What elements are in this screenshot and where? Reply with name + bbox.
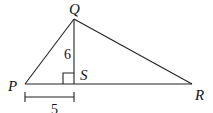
measurement-ps: 5 <box>51 102 58 113</box>
vertex-label-q: Q <box>69 1 80 17</box>
triangle-diagram: Q P S R 6 5 <box>0 0 213 113</box>
vertex-label-s: S <box>80 67 88 83</box>
vertex-label-r: R <box>194 87 204 103</box>
segment-qr <box>74 19 192 84</box>
right-angle-marker-icon <box>63 73 74 84</box>
vertex-label-p: P <box>7 78 17 94</box>
measurement-qs: 6 <box>64 47 71 62</box>
